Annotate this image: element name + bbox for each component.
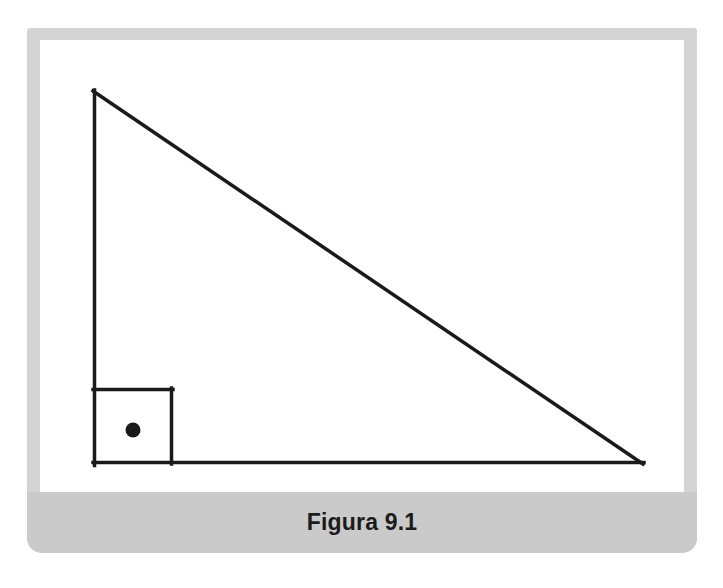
drawing-canvas [40, 40, 684, 492]
hypotenuse-line [93, 91, 643, 464]
figure-frame: Figura 9.1 [27, 28, 697, 553]
center-dot-marker [126, 423, 141, 438]
figure-caption: Figura 9.1 [307, 511, 418, 534]
right-triangle-diagram [40, 40, 684, 492]
caption-band: Figura 9.1 [27, 492, 697, 553]
